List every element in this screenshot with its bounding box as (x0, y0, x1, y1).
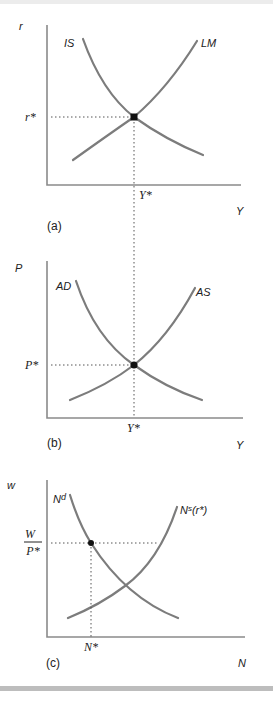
as-curve (70, 288, 195, 400)
n-star-label: N* (83, 640, 98, 654)
p-star-label: P* (24, 358, 38, 372)
is-curve (83, 39, 203, 155)
ad-curve-label: AD (55, 280, 71, 292)
as-curve-label: AS (195, 286, 211, 298)
ad-as-equilibrium-point (130, 361, 137, 368)
real-wage-denominator: P* (25, 544, 39, 558)
bottom-frame-band (0, 686, 273, 691)
panel-b-y-axis-label: P (15, 262, 23, 274)
r-star-label: r* (25, 110, 36, 124)
labor-supply-label: Ns(r*) (180, 504, 208, 516)
panel-c-label: (c) (46, 656, 60, 670)
panel-c-x-axis-label: N (238, 657, 246, 669)
labor-demand-label: Nd (53, 492, 67, 505)
panel-a-is-lm: r Y IS LM r* Y* (a) (19, 20, 244, 233)
real-wage-numerator: W (25, 527, 36, 541)
panel-a-y-axis-label: r (19, 20, 24, 32)
panel-a-y-star-label: Y* (139, 188, 152, 202)
ad-curve (76, 281, 202, 400)
panel-a-x-axis-label: Y (236, 205, 244, 217)
is-curve-label: IS (64, 37, 75, 49)
is-lm-equilibrium-point (131, 114, 138, 121)
panel-b-y-star-label: Y* (127, 421, 140, 435)
lm-curve-label: LM (201, 37, 217, 49)
macro-diagram: r Y IS LM r* Y* (a) P Y AD AS P* Y* (b) … (0, 0, 273, 706)
panel-b-x-axis-label: Y (236, 439, 244, 451)
labor-demand-curve (70, 495, 178, 618)
panel-b-ad-as: P Y AD AS P* Y* (b) (15, 261, 244, 451)
panel-c-y-axis-label: w (7, 479, 16, 491)
panel-a-axes (47, 25, 241, 185)
panel-c-labor-market: w N Nd Ns(r*) W P* N* (c) (7, 479, 246, 670)
labor-market-point (88, 540, 94, 546)
labor-supply-curve (68, 507, 177, 618)
panel-b-label: (b) (47, 436, 62, 450)
panel-a-label: (a) (47, 219, 62, 233)
